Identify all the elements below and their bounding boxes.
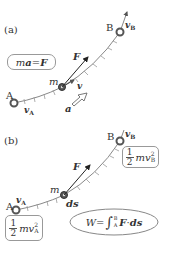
- point-b-label-b: B: [107, 132, 114, 142]
- accel-label: a: [65, 104, 71, 114]
- point-a-label-b: A: [6, 202, 13, 212]
- ds-label: ds: [66, 199, 79, 209]
- kinetic-energy-b-box: 12 mv2B: [122, 146, 159, 168]
- panel-a-label: (a): [4, 25, 18, 35]
- accel-arrow: [72, 93, 87, 106]
- point-a-label: A: [6, 91, 13, 101]
- point-b-marker: [117, 29, 124, 36]
- velocity-b-label: vB: [125, 21, 135, 31]
- mass-label: m: [49, 77, 58, 87]
- panel-b-label: (b): [4, 136, 18, 146]
- velocity-b-label-b: vB: [125, 130, 135, 140]
- kinetic-energy-a-box: 12 mv2A: [5, 215, 43, 241]
- mass-label-b: m: [50, 185, 59, 195]
- velocity-a-label-b: vA: [16, 196, 26, 206]
- force-label-b: F: [73, 162, 80, 172]
- velocity-label: v: [77, 82, 82, 91]
- newton-law-box: ma=F: [7, 54, 56, 70]
- work-equation: W= ∫ BA F·ds: [74, 210, 154, 234]
- point-b-label: B: [106, 23, 113, 33]
- velocity-a-label: vA: [24, 106, 34, 116]
- work-energy-diagram: (a) A vA m F v a B vB ma=F (b) A vA m F …: [0, 0, 169, 257]
- force-label: F: [73, 52, 80, 62]
